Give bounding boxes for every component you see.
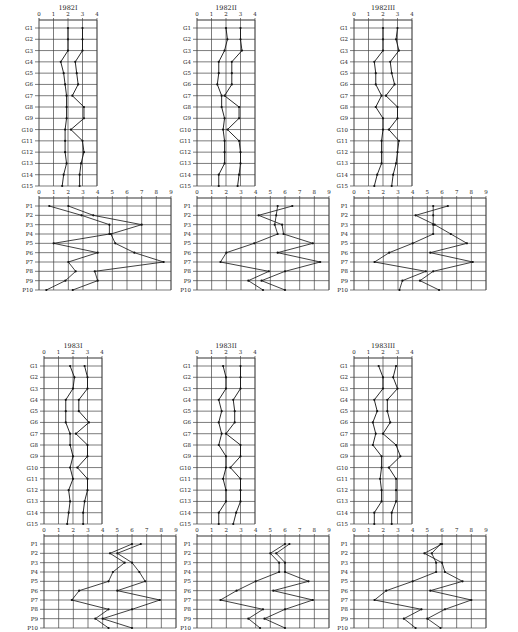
p-row-label: P8: [31, 606, 39, 612]
data-point: [444, 608, 446, 610]
data-point: [45, 289, 47, 291]
data-point: [81, 38, 83, 40]
data-point: [76, 72, 78, 74]
data-point: [75, 270, 77, 272]
data-point: [375, 83, 377, 85]
data-point: [380, 162, 382, 164]
data-point: [53, 242, 55, 244]
data-point: [223, 95, 225, 97]
data-point: [382, 27, 384, 29]
g-row-label: G10: [337, 127, 349, 133]
g-row-label: G12: [180, 487, 191, 493]
data-point: [65, 399, 67, 401]
data-point: [382, 38, 384, 40]
p-tick-label: 6: [125, 189, 129, 195]
data-point: [116, 590, 118, 592]
data-point: [415, 214, 417, 216]
data-point: [392, 376, 394, 378]
p-tick-label: 7: [455, 189, 459, 195]
data-point: [239, 444, 241, 446]
g-tick-label: 1: [367, 349, 371, 355]
data-point: [66, 523, 68, 525]
data-point: [140, 543, 142, 545]
p-row-label: P7: [31, 597, 39, 603]
data-point: [378, 365, 380, 367]
data-point: [392, 174, 394, 176]
data-point: [69, 466, 71, 468]
g-tick-label: 1: [367, 11, 371, 17]
data-point: [97, 252, 99, 254]
g-row-label: G3: [30, 386, 38, 392]
data-point: [86, 489, 88, 491]
p-series-line: [68, 206, 163, 290]
p-tick-label: 1: [57, 527, 61, 533]
data-point: [382, 433, 384, 435]
data-point: [429, 590, 431, 592]
data-point: [225, 387, 227, 389]
g-row-label: G4: [25, 59, 33, 65]
data-point: [388, 128, 390, 130]
p-tick-label: 1: [367, 527, 371, 533]
p-row-label: P6: [26, 250, 34, 256]
g-row-label: G4: [30, 397, 38, 403]
g-tick-label: 0: [352, 11, 356, 17]
g-row-label: G5: [25, 70, 33, 76]
g-row-label: G13: [27, 498, 39, 504]
p-tick-label: 6: [283, 527, 287, 533]
p-series-line: [264, 544, 312, 628]
data-point: [225, 500, 227, 502]
p-series-line: [103, 544, 160, 628]
data-point: [312, 242, 314, 244]
g-tick-label: 3: [239, 349, 243, 355]
data-point: [272, 590, 274, 592]
data-point: [64, 151, 66, 153]
g-row-label: G9: [25, 115, 33, 121]
data-point: [68, 489, 70, 491]
p-row-label: P2: [26, 212, 33, 218]
g-row-label: G10: [337, 465, 349, 471]
data-point: [81, 140, 83, 142]
p-tick-label: 5: [426, 527, 430, 533]
g-row-label: G2: [340, 374, 348, 380]
data-point: [380, 455, 382, 457]
g-tick-label: 2: [381, 349, 385, 355]
data-point: [84, 500, 86, 502]
data-point: [69, 433, 71, 435]
p-row-label: P10: [337, 625, 348, 631]
data-point: [284, 289, 286, 291]
p-tick-label: 4: [411, 527, 415, 533]
p-tick-label: 8: [155, 189, 159, 195]
data-point: [391, 72, 393, 74]
p-tick-label: 3: [396, 189, 400, 195]
data-point: [274, 224, 276, 226]
data-point: [396, 106, 398, 108]
panel-1982II: 1982II01234G1G2G3G4G5G6G7G8G9G10G11G12G1…: [180, 4, 332, 293]
p-tick-label: 0: [352, 527, 356, 533]
data-point: [307, 580, 309, 582]
p-tick-label: 8: [313, 527, 317, 533]
g-row-label: G8: [183, 442, 191, 448]
data-point: [236, 590, 238, 592]
g-row-label: G1: [183, 25, 191, 31]
data-point: [75, 433, 77, 435]
data-point: [375, 433, 377, 435]
p-series-line: [46, 206, 109, 290]
g-row-label: G13: [180, 498, 192, 504]
data-point: [64, 140, 66, 142]
data-point: [239, 151, 241, 153]
data-point: [380, 489, 382, 491]
data-point: [107, 580, 109, 582]
p-grid: 0123456789P1P2P3P4P5P6P7P8P9P10: [180, 189, 331, 293]
data-point: [450, 233, 452, 235]
g-row-label: G7: [340, 93, 348, 99]
data-point: [138, 571, 140, 573]
p-tick-label: 6: [130, 527, 134, 533]
data-point: [258, 214, 260, 216]
p-row-label: P7: [26, 259, 34, 265]
g-row-label: G2: [30, 374, 38, 380]
data-point: [389, 421, 391, 423]
p-row-label: P2: [341, 550, 348, 556]
data-point: [401, 280, 403, 282]
p-tick-label: 4: [101, 527, 105, 533]
data-point: [112, 571, 114, 573]
